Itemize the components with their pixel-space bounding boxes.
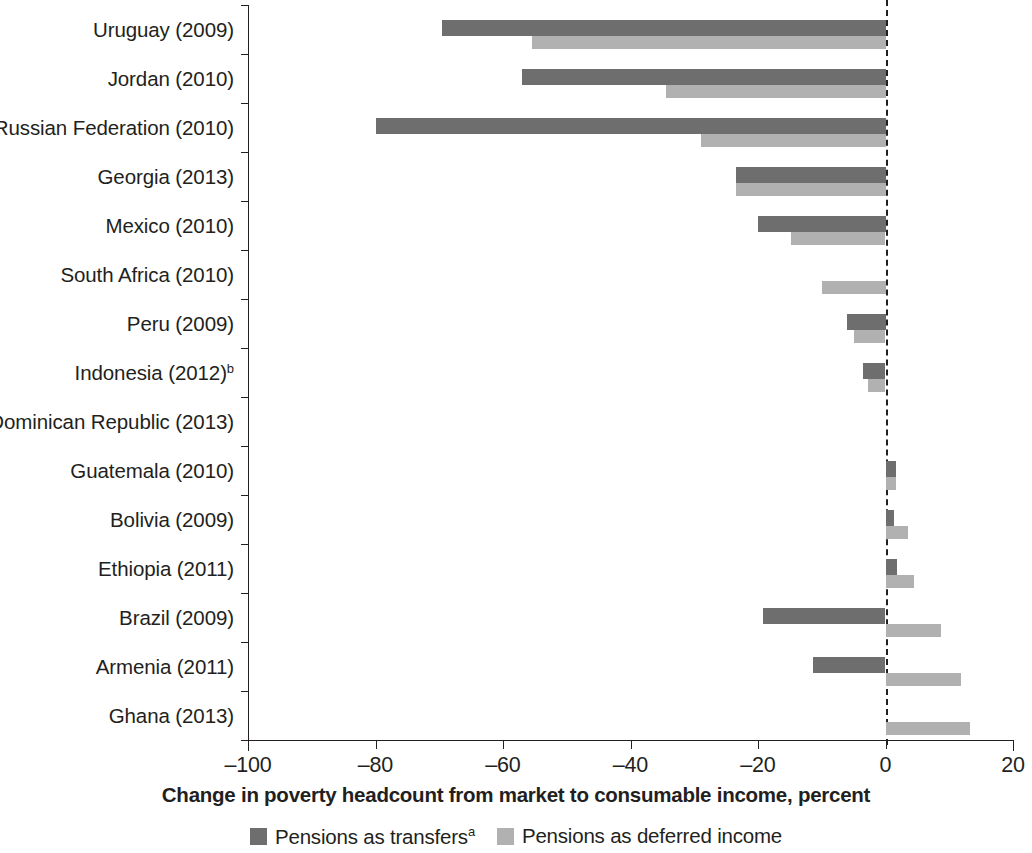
- category-label: Armenia (2011): [96, 655, 234, 679]
- x-tick: [631, 740, 632, 749]
- bar-deferred: [886, 722, 971, 735]
- bar-deferred: [666, 85, 886, 98]
- bar-deferred: [701, 134, 886, 147]
- x-tick: [886, 740, 887, 749]
- bar-transfers: [442, 20, 885, 36]
- y-tick: [241, 54, 248, 55]
- bar-deferred: [886, 575, 914, 588]
- legend-label-deferred: Pensions as deferred income: [522, 824, 782, 848]
- category-label: Mexico (2010): [105, 214, 234, 238]
- y-tick: [241, 5, 248, 6]
- category-row: Indonesia (2012)b: [248, 348, 1013, 397]
- category-row: Jordan (2010): [248, 54, 1013, 103]
- y-tick: [241, 103, 248, 104]
- category-label: Indonesia (2012)b: [75, 360, 234, 385]
- category-label: Georgia (2013): [98, 165, 235, 189]
- bar-transfers: [758, 216, 886, 232]
- bar-deferred: [822, 281, 886, 294]
- category-label: Dominican Republic (2013): [0, 410, 234, 434]
- legend-label-superscript: a: [468, 824, 475, 839]
- y-tick: [241, 691, 248, 692]
- legend-item-deferred: Pensions as deferred income: [497, 824, 782, 848]
- chart-legend: Pensions as transfersa Pensions as defer…: [0, 824, 1032, 849]
- chart-figure: Uruguay (2009)Jordan (2010)Russian Feder…: [0, 0, 1032, 853]
- y-tick: [241, 740, 248, 741]
- category-row: Ghana (2013): [248, 691, 1013, 740]
- bar-transfers: [522, 69, 885, 85]
- x-tick-label: –40: [613, 753, 648, 778]
- x-tick: [248, 740, 249, 751]
- bar-deferred: [736, 183, 886, 196]
- category-row: Ethiopia (2011): [248, 544, 1013, 593]
- category-row: Peru (2009): [248, 299, 1013, 348]
- y-tick: [241, 495, 248, 496]
- category-row: Brazil (2009): [248, 593, 1013, 642]
- x-tick: [758, 740, 759, 749]
- category-row: Armenia (2011): [248, 642, 1013, 691]
- y-tick: [241, 544, 248, 545]
- bar-deferred: [886, 526, 909, 539]
- legend-item-transfers: Pensions as transfersa: [250, 824, 475, 849]
- y-tick: [241, 642, 248, 643]
- category-row: Bolivia (2009): [248, 495, 1013, 544]
- category-label: Ghana (2013): [109, 704, 234, 728]
- category-row: Uruguay (2009): [248, 5, 1013, 54]
- bar-transfers: [376, 118, 886, 134]
- bar-transfers: [847, 314, 885, 330]
- bar-deferred: [886, 673, 961, 686]
- x-tick: [376, 740, 377, 749]
- bar-deferred: [854, 330, 885, 343]
- category-row: Georgia (2013): [248, 152, 1013, 201]
- bar-transfers: [736, 167, 886, 183]
- plot-area: Uruguay (2009)Jordan (2010)Russian Feder…: [248, 5, 1013, 740]
- category-row: Dominican Republic (2013): [248, 397, 1013, 446]
- x-tick: [503, 740, 504, 749]
- category-row: South Africa (2010): [248, 250, 1013, 299]
- y-tick: [241, 348, 248, 349]
- x-tick-label: –60: [485, 753, 520, 778]
- category-row: Guatemala (2010): [248, 446, 1013, 495]
- x-tick: [1013, 740, 1014, 751]
- bar-deferred: [886, 477, 896, 490]
- legend-swatch-deferred-icon: [497, 828, 514, 845]
- category-label: Jordan (2010): [108, 67, 234, 91]
- x-tick-label: –20: [740, 753, 775, 778]
- y-tick: [241, 299, 248, 300]
- x-tick-label: –80: [358, 753, 393, 778]
- bar-transfers: [863, 363, 886, 379]
- x-tick-label: 0: [880, 753, 892, 778]
- y-tick: [241, 250, 248, 251]
- bar-deferred: [532, 36, 886, 49]
- y-tick: [241, 446, 248, 447]
- category-label: Guatemala (2010): [70, 459, 234, 483]
- bar-transfers: [886, 510, 894, 526]
- category-label: Bolivia (2009): [110, 508, 234, 532]
- y-tick: [241, 593, 248, 594]
- legend-label-transfers: Pensions as transfersa: [275, 824, 475, 849]
- category-label-superscript: b: [227, 360, 234, 375]
- category-row: Mexico (2010): [248, 201, 1013, 250]
- bar-transfers: [813, 657, 885, 673]
- bar-deferred: [791, 232, 885, 245]
- category-label: Russian Federation (2010): [0, 116, 234, 140]
- x-tick-label: 20: [1001, 753, 1025, 778]
- category-label: Brazil (2009): [119, 606, 234, 630]
- y-tick: [241, 152, 248, 153]
- category-label: South Africa (2010): [60, 263, 234, 287]
- bar-transfers: [886, 559, 897, 575]
- category-label: Peru (2009): [127, 312, 234, 336]
- x-axis-title: Change in poverty headcount from market …: [0, 783, 1032, 807]
- y-tick: [241, 201, 248, 202]
- bar-deferred: [886, 624, 941, 637]
- y-tick: [241, 397, 248, 398]
- legend-swatch-transfers-icon: [250, 828, 267, 845]
- category-row: Russian Federation (2010): [248, 103, 1013, 152]
- category-label: Ethiopia (2011): [98, 557, 234, 581]
- bar-deferred: [868, 379, 886, 392]
- bar-transfers: [763, 608, 885, 624]
- category-label: Uruguay (2009): [93, 18, 234, 42]
- x-tick-label: –100: [224, 753, 271, 778]
- bar-transfers: [886, 461, 897, 477]
